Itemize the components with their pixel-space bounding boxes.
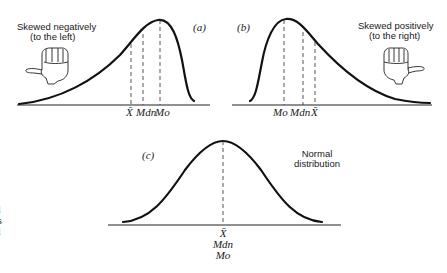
panel-c-mode-label: Mo	[215, 249, 231, 261]
panel-a-caption-line2: (to the left)	[30, 31, 75, 42]
panel-c-normal: X̄ Mdn Mo (c) Normal distribution	[108, 141, 341, 261]
panel-c-caption-line2: distribution	[294, 158, 340, 169]
panel-a-mode-label: Mo	[154, 106, 170, 118]
margin-fragment-1: l	[0, 204, 1, 215]
panel-b-mode-label: Mo	[272, 106, 288, 118]
panel-c-label: (c)	[142, 149, 155, 162]
margin-fragment-2: s	[0, 215, 2, 226]
margin-fragment-3: l	[0, 226, 1, 237]
panel-b-caption-line2: (to the right)	[369, 30, 420, 41]
panel-a-median-label: Mdn	[135, 106, 157, 118]
thumb-right-hand-icon	[384, 48, 424, 84]
panel-b-mean-label: X̄	[310, 106, 319, 118]
panel-b-positive-skew: Mo Mdn X̄ (b) Skewed positively (to the …	[232, 19, 434, 118]
thumb-left-hand-icon	[26, 48, 68, 84]
distribution-shapes-figure: X̄ Mdn Mo (a) Skewed negatively (to the …	[0, 0, 447, 273]
panel-a-mean-label: X̄	[125, 106, 134, 118]
panel-a-label: (a)	[193, 21, 206, 34]
panel-b-median-label: Mdn	[289, 106, 311, 118]
left-margin-text-fragments: l s l	[0, 204, 2, 237]
panel-b-label: (b)	[237, 21, 250, 34]
panel-a-negative-skew: X̄ Mdn Mo (a) Skewed negatively (to the …	[17, 20, 210, 118]
